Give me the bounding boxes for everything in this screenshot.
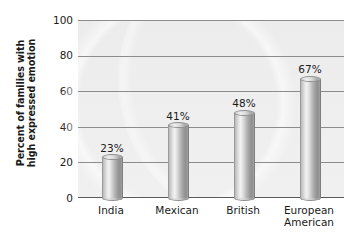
- y-tick-label-60: 60: [47, 86, 73, 97]
- bar-cap-european-american: [300, 76, 321, 82]
- bar-british[interactable]: [234, 113, 255, 198]
- bar-chart: Percent of families with high expressed …: [0, 0, 355, 238]
- y-axis-title-line-2: high expressed emotion: [26, 39, 37, 167]
- bar-foot-british: [234, 195, 255, 201]
- y-axis-title: Percent of families with high expressed …: [0, 0, 46, 205]
- bar-foot-mexican: [168, 195, 189, 201]
- y-tick-label-20: 20: [47, 157, 73, 168]
- bar-cap-british: [234, 110, 255, 116]
- x-tick-label-european-american-line-1: European: [266, 204, 352, 216]
- y-tick-label-100: 100: [47, 15, 73, 26]
- bar-cap-india: [102, 154, 123, 160]
- gridline-100: [78, 20, 344, 21]
- gridline-80: [78, 56, 344, 57]
- plot-area: 23% 41% 48% 67%: [78, 20, 344, 198]
- data-label-british: 48%: [221, 98, 267, 109]
- y-axis-title-line-1: Percent of families with: [15, 40, 26, 167]
- bar-foot-european-american: [300, 195, 321, 201]
- data-label-mexican: 41%: [155, 111, 201, 122]
- data-label-european-american: 67%: [287, 64, 333, 75]
- y-tick-label-40: 40: [47, 122, 73, 133]
- data-label-india: 23%: [89, 143, 135, 154]
- bar-european-american[interactable]: [300, 79, 321, 198]
- bar-foot-india: [102, 195, 123, 201]
- y-tick-label-0: 0: [47, 193, 73, 204]
- x-tick-label-european-american-line-2: American: [266, 216, 352, 228]
- bar-mexican[interactable]: [168, 125, 189, 198]
- y-tick-label-80: 80: [47, 50, 73, 61]
- x-tick-label-european-american: European American: [266, 204, 352, 228]
- bar-cap-mexican: [168, 122, 189, 128]
- bar-india[interactable]: [102, 157, 123, 198]
